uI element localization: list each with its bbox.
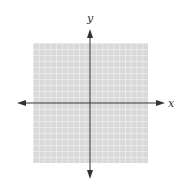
y-axis-top-arrow-icon (87, 29, 93, 38)
x-axis-left-arrow-icon (17, 100, 26, 106)
x-axis-right-arrow-icon (156, 100, 165, 106)
x-axis-label: x (168, 97, 175, 110)
y-axis-label: y (86, 12, 94, 25)
coordinate-plane: y x (0, 0, 183, 184)
y-axis-bottom-arrow-icon (87, 170, 93, 179)
